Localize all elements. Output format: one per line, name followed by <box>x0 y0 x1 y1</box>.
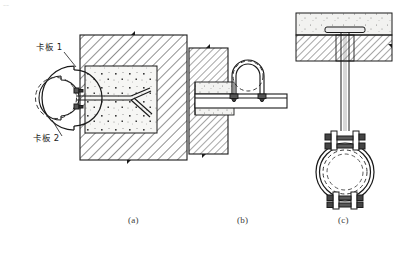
clamp-ring <box>316 143 374 201</box>
upper-bolt-ears <box>325 131 365 150</box>
label-leader-lines-a <box>52 52 76 136</box>
pipe-dashed-circle-c <box>323 150 367 194</box>
clamp-plate-inner <box>39 76 79 120</box>
label-ka-ban-1: 卡板 1 <box>36 40 62 52</box>
pipe-dashed-circle-b <box>233 61 263 91</box>
label-ka-ban-2: 卡板 2 <box>33 131 59 143</box>
caption-a: (a) <box>128 215 139 225</box>
panel-c-group <box>296 13 392 209</box>
panel-b-group <box>189 44 287 158</box>
pipe-dashed-circle-c-inner <box>327 154 363 190</box>
caption-b: (b) <box>237 215 248 225</box>
caption-c: (c) <box>338 215 349 225</box>
lower-bolt-ears <box>327 192 363 209</box>
figure-canvas: –– <box>0 0 400 253</box>
u-bolt <box>232 60 264 94</box>
bracket-channel <box>195 94 287 108</box>
embedded-plate <box>325 27 365 33</box>
